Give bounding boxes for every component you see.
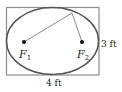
- ellipse: [7, 8, 99, 75]
- width-label: 4 ft: [46, 78, 62, 88]
- focus-f2-dot: [80, 40, 84, 44]
- segment-f2-to-point: [72, 13, 82, 42]
- segment-f1-to-point: [24, 13, 72, 42]
- focus-f1-dot: [22, 40, 26, 44]
- focus-f2-label: F2: [76, 48, 89, 62]
- ellipse-diagram: F1 F2 3 ft 4 ft: [0, 0, 122, 92]
- focus-f1-label: F1: [18, 48, 31, 62]
- height-label: 3 ft: [101, 39, 117, 49]
